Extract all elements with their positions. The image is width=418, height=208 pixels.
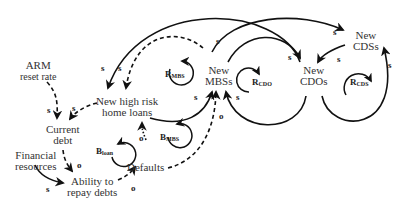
link-loans-to-mbs bbox=[150, 92, 212, 121]
node-new-mbss: New MBSs bbox=[205, 65, 233, 87]
causal-loop-diagram: ARM reset rate New high risk home loans … bbox=[0, 0, 418, 208]
loop-label-b-loan: Bloan bbox=[96, 146, 113, 156]
polarity-s: s bbox=[288, 52, 292, 62]
node-new-cdos: New CDOs bbox=[300, 65, 328, 87]
node-defaults: Defaults bbox=[127, 162, 164, 173]
polarity-s: s bbox=[72, 103, 76, 113]
polarity-s: s bbox=[194, 92, 198, 102]
polarity-s: s bbox=[333, 27, 337, 37]
node-new-cdss: New CDSs bbox=[353, 30, 379, 52]
polarity-s: s bbox=[388, 60, 392, 70]
loop-label-r-mbs: RMBS bbox=[165, 69, 185, 79]
polarity-s: s bbox=[47, 105, 51, 115]
polarity-s: s bbox=[46, 184, 50, 194]
polarity-o: o bbox=[131, 183, 136, 193]
loop-label-r-cdo: RCDO bbox=[252, 77, 272, 87]
node-ability-to-repay-debts: Ability to repay debts bbox=[67, 176, 117, 198]
link-defaults-to-mbs bbox=[168, 92, 216, 168]
node-current-debt: Current debt bbox=[46, 124, 80, 146]
polarity-o: o bbox=[139, 133, 144, 143]
polarity-s: s bbox=[101, 63, 105, 73]
polarity-s: s bbox=[216, 36, 220, 46]
polarity-s: s bbox=[236, 92, 240, 102]
polarity-o: o bbox=[219, 111, 224, 121]
polarity-s: s bbox=[118, 63, 122, 73]
node-financial-resources: Financial resources bbox=[15, 150, 57, 172]
node-arm-reset-rate: ARM reset rate bbox=[20, 60, 56, 82]
polarity-s: s bbox=[337, 54, 341, 64]
loop-label-b-mbs: BMBS bbox=[160, 132, 179, 142]
node-new-high-risk-home-loans: New high risk home loans bbox=[96, 96, 158, 118]
link-debt-to-ability bbox=[63, 150, 72, 171]
polarity-o: o bbox=[77, 160, 82, 170]
loop-label-r-cds: RCDS bbox=[350, 77, 369, 87]
